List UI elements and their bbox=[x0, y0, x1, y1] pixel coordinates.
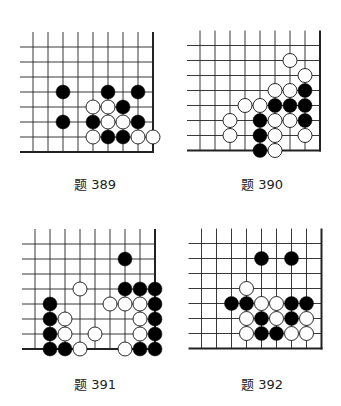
black-stone bbox=[285, 312, 299, 326]
white-stone bbox=[240, 282, 254, 296]
white-stone bbox=[240, 312, 254, 326]
black-stone bbox=[240, 297, 254, 311]
black-stone bbox=[255, 252, 269, 266]
black-stone bbox=[225, 297, 239, 311]
white-stone bbox=[240, 327, 254, 341]
black-stone bbox=[255, 312, 269, 326]
go-board-diagram bbox=[0, 0, 341, 406]
black-stone bbox=[285, 252, 299, 266]
white-stone bbox=[285, 327, 299, 341]
black-stone bbox=[300, 297, 314, 311]
white-stone bbox=[255, 297, 269, 311]
problem-caption: 题 392 bbox=[212, 377, 312, 393]
black-stone bbox=[270, 327, 284, 341]
white-stone bbox=[270, 297, 284, 311]
black-stone bbox=[255, 327, 269, 341]
white-stone bbox=[270, 312, 284, 326]
white-stone bbox=[300, 312, 314, 326]
black-stone bbox=[285, 297, 299, 311]
white-stone bbox=[300, 327, 314, 341]
